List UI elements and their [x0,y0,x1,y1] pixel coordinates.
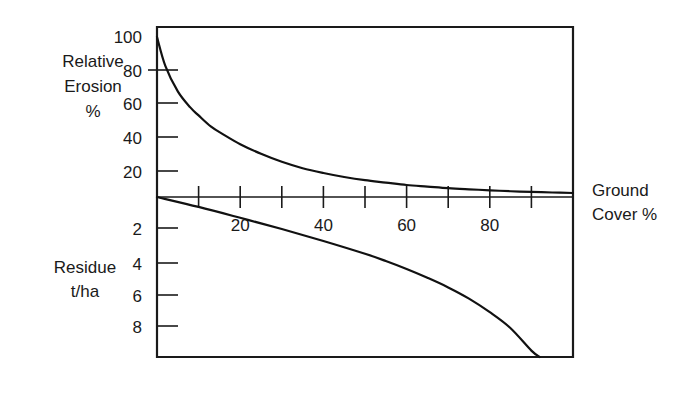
residue-y-axis-ticks [157,228,178,326]
erosion-axis-title-line1: Relative [62,52,123,71]
erosion-y-tick-label-40: 40 [123,129,142,148]
erosion-axis-title-line2: Erosion [64,77,122,96]
erosion-y-tick-label-20: 20 [123,163,142,182]
x-tick-label-40: 40 [314,216,333,235]
erosion-y-tick-label-80: 80 [123,62,142,81]
residue-y-axis-tick-labels: 2 4 6 8 [133,220,142,337]
erosion-y-tick-label-100: 100 [114,28,142,47]
erosion-y-tick-label-60: 60 [123,95,142,114]
residue-y-tick-label-8: 8 [133,318,142,337]
x-tick-label-60: 60 [397,216,416,235]
residue-y-tick-label-4: 4 [133,255,142,274]
residue-y-tick-label-2: 2 [133,220,142,239]
x-axis-title-line2: Cover % [592,205,657,224]
x-tick-label-80: 80 [480,216,499,235]
relative-erosion-curve [157,37,573,193]
x-axis-title-line1: Ground [592,181,649,200]
residue-axis-title-line2: t/ha [71,282,100,301]
erosion-axis-title: Relative Erosion % [62,52,123,121]
chart-page: 20 40 60 80 100 80 60 40 20 2 [0,0,687,393]
erosion-axis-title-line3: % [85,102,100,121]
residue-y-tick-label-6: 6 [133,287,142,306]
erosion-residue-chart: 20 40 60 80 100 80 60 40 20 2 [0,0,687,393]
residue-axis-title-line1: Residue [54,258,116,277]
x-axis-title: Ground Cover % [592,181,657,224]
residue-axis-title: Residue t/ha [54,258,116,301]
